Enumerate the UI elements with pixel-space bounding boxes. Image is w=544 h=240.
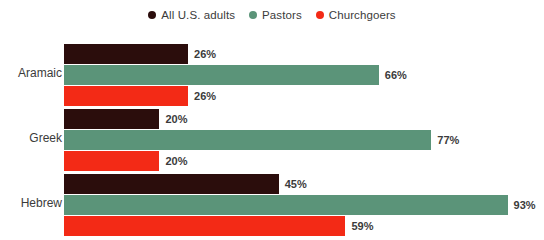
legend-label: Pastors [262, 9, 302, 21]
bar-pastors [64, 195, 508, 215]
bar-all-us-adults [64, 174, 279, 194]
legend-item-all-us-adults: All U.S. adults [148, 9, 235, 21]
bar-value-label: 20% [159, 155, 187, 167]
bar-churchgoers [64, 86, 188, 106]
bar-churchgoers [64, 151, 159, 171]
legend-label: All U.S. adults [161, 9, 235, 21]
legend-swatch-icon [249, 11, 257, 19]
legend-item-churchgoers: Churchgoers [316, 9, 396, 21]
legend-label: Churchgoers [329, 9, 396, 21]
bar-pastors [64, 130, 431, 150]
bar-value-label: 59% [345, 220, 373, 232]
category-label-hebrew: Hebrew [0, 196, 62, 210]
bar-value-label: 20% [159, 113, 187, 125]
legend-item-pastors: Pastors [249, 9, 302, 21]
bar-all-us-adults [64, 109, 159, 129]
bar-all-us-adults [64, 44, 188, 64]
bar-chart: All U.S. adults Pastors Churchgoers Aram… [0, 0, 544, 240]
bar-value-label: 26% [188, 90, 216, 102]
bar-value-label: 93% [508, 199, 536, 211]
bar-value-label: 77% [431, 134, 459, 146]
bar-churchgoers [64, 216, 345, 236]
bar-value-label: 26% [188, 48, 216, 60]
category-label-aramaic: Aramaic [0, 66, 62, 80]
bar-group: Greek 20% 77% 20% [0, 109, 544, 171]
legend-swatch-icon [148, 11, 156, 19]
legend-swatch-icon [316, 11, 324, 19]
bar-value-label: 66% [379, 69, 407, 81]
bar-value-label: 45% [279, 178, 307, 190]
bar-pastors [64, 65, 379, 85]
chart-legend: All U.S. adults Pastors Churchgoers [0, 9, 544, 21]
bar-group: Aramaic 26% 66% 26% [0, 44, 544, 106]
category-label-greek: Greek [0, 131, 62, 145]
bar-group: Hebrew 45% 93% 59% [0, 174, 544, 236]
plot-area: Aramaic 26% 66% 26% Greek 20% [0, 30, 544, 240]
